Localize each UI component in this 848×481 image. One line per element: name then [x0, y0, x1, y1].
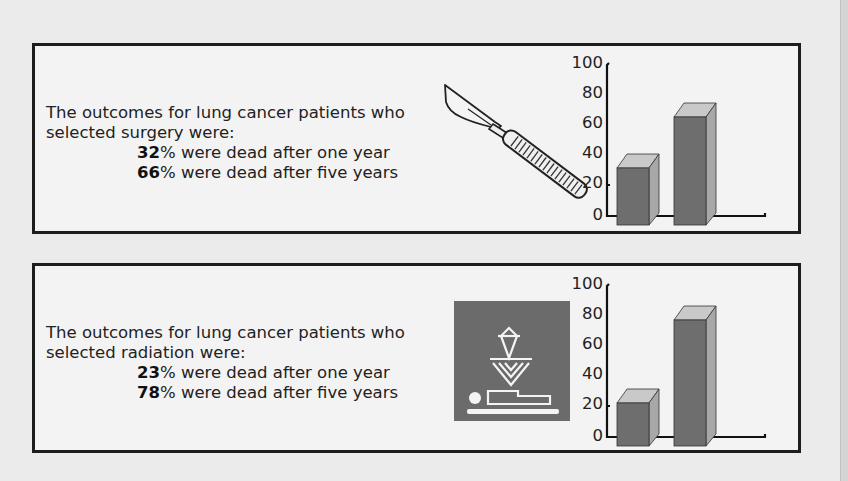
surgery-bar-chart: 100 80 60 40 20 0	[545, 48, 775, 231]
bar-five-year	[674, 306, 716, 446]
stat-value: 66	[137, 163, 160, 182]
radiation-intro-line2: selected radiation were:	[46, 343, 405, 363]
radiation-stat-five-year: 78% were dead after five years	[46, 383, 405, 403]
svg-text:0: 0	[593, 205, 604, 224]
surgery-panel: The outcomes for lung cancer patients wh…	[32, 43, 801, 234]
bar-one-year	[617, 389, 659, 446]
surgery-stat-five-year: 66% were dead after five years	[46, 163, 405, 183]
surgery-text: The outcomes for lung cancer patients wh…	[46, 103, 405, 183]
svg-text:0: 0	[593, 426, 604, 445]
surgery-intro-line1: The outcomes for lung cancer patients wh…	[46, 103, 405, 123]
svg-text:80: 80	[582, 83, 603, 102]
bar-one-year	[617, 154, 659, 225]
svg-text:20: 20	[582, 394, 603, 413]
stat-value: 32	[137, 143, 160, 162]
surgery-intro-line2: selected surgery were:	[46, 123, 405, 143]
y-axis-ticks: 100 80 60 40 20 0	[572, 274, 604, 445]
svg-text:80: 80	[582, 304, 603, 323]
y-axis-ticks: 100 80 60 40 20 0	[572, 53, 604, 224]
svg-text:20: 20	[582, 173, 603, 192]
svg-text:60: 60	[582, 334, 603, 353]
bar-five-year	[674, 103, 716, 225]
radiation-panel: The outcomes for lung cancer patients wh…	[32, 263, 801, 453]
stat-value: 23	[137, 363, 160, 382]
radiation-intro-line1: The outcomes for lung cancer patients wh…	[46, 323, 405, 343]
radiation-stat-one-year: 23% were dead after one year	[46, 363, 405, 383]
svg-text:100: 100	[572, 53, 604, 72]
stat-value: 78	[137, 383, 160, 402]
radiation-bar-chart: 100 80 60 40 20 0	[545, 269, 775, 452]
svg-text:60: 60	[582, 113, 603, 132]
radiation-text: The outcomes for lung cancer patients wh…	[46, 323, 405, 403]
surgery-stat-one-year: 32% were dead after one year	[46, 143, 405, 163]
page-edge	[840, 0, 848, 481]
svg-text:40: 40	[582, 143, 603, 162]
svg-text:100: 100	[572, 274, 604, 293]
svg-text:40: 40	[582, 364, 603, 383]
